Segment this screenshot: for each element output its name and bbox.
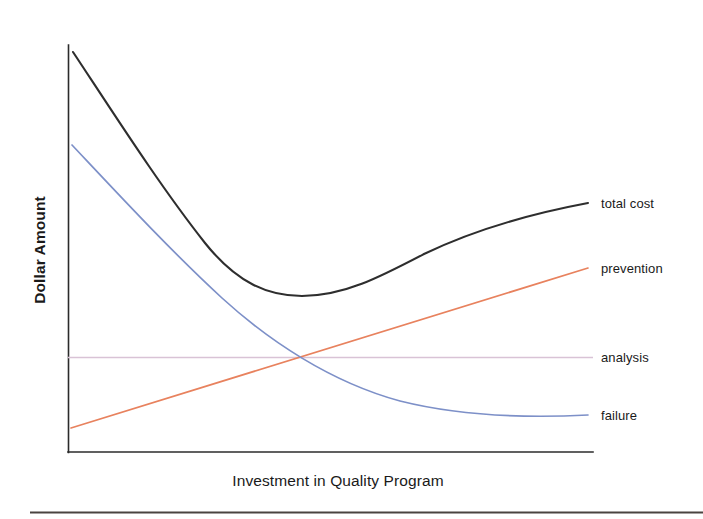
cost-of-quality-chart: Dollar Amount Investment in Quality Prog… (0, 0, 703, 519)
chart-background (0, 0, 703, 519)
series-label-total-cost: total cost (601, 196, 654, 211)
series-label-analysis: analysis (601, 350, 649, 365)
series-label-failure: failure (601, 408, 637, 423)
y-axis-title: Dollar Amount (31, 196, 48, 304)
x-axis-title: Investment in Quality Program (232, 472, 443, 489)
chart-figure: Dollar Amount Investment in Quality Prog… (0, 0, 703, 519)
series-label-prevention: prevention (601, 261, 663, 276)
